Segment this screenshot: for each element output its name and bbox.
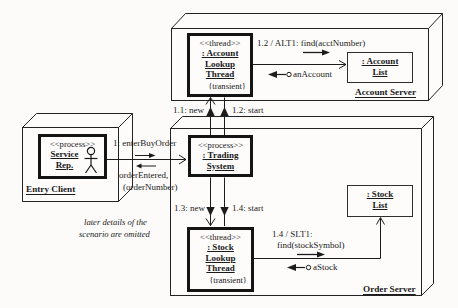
msg-new2-label: 1.3: new bbox=[174, 203, 205, 213]
account-list-box: : Account List bbox=[347, 52, 413, 83]
account-list-name-line1: : Account bbox=[348, 56, 412, 67]
stock-thread-stereotype: <<thread>> bbox=[190, 230, 251, 242]
account-thread-name-line1: : Account bbox=[190, 48, 250, 59]
account-list-name-line2: List bbox=[348, 67, 412, 78]
uml-deployment-diagram: <<process>> Service Rep. Entry Client <<… bbox=[0, 0, 458, 308]
msg-arrow-orderentered-icon bbox=[136, 163, 156, 168]
actor-icon bbox=[82, 146, 100, 176]
entry-client-node-label: Entry Client bbox=[26, 184, 75, 194]
msg-find-stock-label-line1: 1.4 / SLT1: bbox=[272, 229, 312, 239]
msg-new1-label: 1.1: new bbox=[173, 105, 204, 115]
stock-thread-name-line3: Thread bbox=[190, 263, 251, 274]
trading-system-box: <<process>> : Trading System bbox=[188, 135, 253, 177]
stock-list-box: : Stock List bbox=[347, 185, 413, 217]
msg-start2-label: 1.4: start bbox=[232, 203, 264, 213]
stock-list-name-line2: List bbox=[348, 200, 412, 211]
msg-arrow-enterbuyorder-icon bbox=[135, 153, 156, 158]
account-thread-stereotype: <<thread>> bbox=[190, 36, 250, 48]
account-thread-name-line2: Lookup bbox=[190, 59, 250, 70]
msg-return-anaccount-label: anAccount bbox=[293, 69, 332, 79]
account-thread-name-line3: Thread bbox=[190, 69, 250, 80]
stock-thread-name-line2: Lookup bbox=[190, 253, 251, 264]
stock-thread-name-line1: : Stock bbox=[190, 242, 251, 253]
service-rep-name-line2: Rep. bbox=[41, 160, 88, 171]
msg-arrowheads-new-start-up-icon bbox=[206, 107, 228, 116]
service-rep-name-line1: Service bbox=[41, 149, 88, 160]
scenario-note-line1: later details of the bbox=[84, 217, 147, 227]
stock-lookup-thread-box: <<thread>> : Stock Lookup Thread {transi… bbox=[187, 227, 254, 292]
order-server-node-label: Order Server bbox=[363, 284, 416, 294]
account-thread-transient-tag: {transient} bbox=[190, 81, 250, 91]
account-lookup-thread-box: <<thread>> : Account Lookup Thread {tran… bbox=[187, 33, 253, 97]
stock-thread-transient-tag: {transient} bbox=[190, 275, 251, 285]
trading-system-name-line1: : Trading bbox=[191, 150, 250, 161]
trading-system-stereotype: <<process>> bbox=[191, 138, 250, 150]
msg-orderentered-label-line2: (orderNumber) bbox=[123, 182, 177, 192]
msg-start1-label: 1.2: start bbox=[232, 105, 264, 115]
msg-find-stock-label-line2: find(stockSymbol) bbox=[277, 240, 345, 250]
account-server-node-label: Account Server bbox=[355, 87, 416, 97]
service-rep-object-box: <<process>> Service Rep. bbox=[38, 134, 107, 179]
trading-system-name-line2: System bbox=[191, 161, 250, 172]
msg-orderentered-label-line1: orderEntered, bbox=[119, 170, 168, 180]
msg-enterbuyorder-label: 1: enterBuyOrder bbox=[113, 138, 176, 148]
scenario-note-line2: scenario are omitted bbox=[79, 229, 150, 239]
stock-list-name-line1: : Stock bbox=[348, 189, 412, 200]
msg-return-astock-label: aStock bbox=[313, 262, 338, 272]
msg-find-acct-label: 1.2 / ALT1: find(acctNumber) bbox=[257, 38, 365, 48]
